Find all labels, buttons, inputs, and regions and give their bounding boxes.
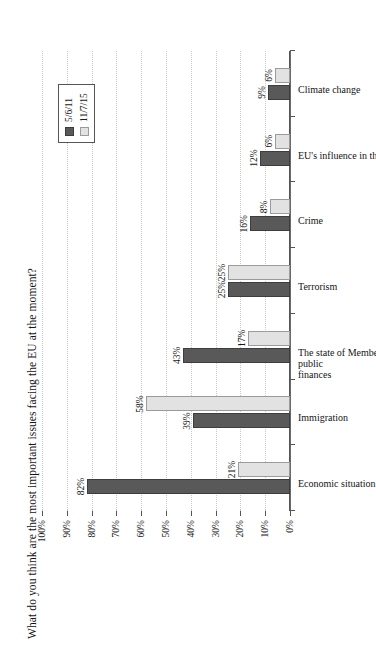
bar-value-label: 43%	[172, 347, 182, 364]
legend-swatch-icon	[65, 127, 74, 136]
bar-value-label: 21%	[227, 461, 237, 478]
bar-value-label: 39%	[182, 412, 192, 429]
bar-group[interactable]: 43%17%	[42, 314, 290, 380]
y-tick-mark	[166, 511, 167, 516]
category-tick	[290, 313, 295, 314]
bar-value-label: 58%	[135, 395, 145, 412]
y-tick-label: 40%	[186, 520, 196, 537]
legend-swatch-icon	[80, 127, 89, 136]
bar-value-label: 12%	[249, 149, 259, 166]
bar-5-6-11[interactable]: 25%	[228, 282, 290, 297]
y-tick-label: 60%	[136, 520, 146, 537]
chart-legend: 5/6/1111/7/15	[58, 84, 95, 143]
y-tick-mark	[265, 511, 266, 516]
y-tick-mark	[240, 511, 241, 516]
bar-5-6-11[interactable]: 16%	[250, 216, 290, 231]
bar-chart-figure: What do you think are the most important…	[0, 0, 376, 661]
category-tick	[290, 116, 295, 117]
gridline-0%	[290, 51, 291, 511]
bar-5-6-11[interactable]: 43%	[183, 348, 290, 363]
legend-item[interactable]: 11/7/15	[79, 93, 89, 136]
category-tick	[290, 50, 295, 51]
y-tick-mark	[290, 511, 291, 516]
bar-group[interactable]: 16%8%	[42, 182, 290, 248]
bar-value-label: 25%	[217, 264, 227, 281]
bar-5-6-11[interactable]: 12%	[260, 151, 290, 166]
category-tick	[290, 510, 295, 511]
y-tick-mark	[42, 511, 43, 516]
y-tick-mark	[191, 511, 192, 516]
y-tick-mark	[141, 511, 142, 516]
bar-11-7-15[interactable]: 21%	[238, 462, 290, 477]
bar-value-label: 6%	[264, 69, 274, 82]
y-tick-label: 20%	[235, 520, 245, 537]
category-label: Climate change	[298, 84, 376, 95]
bar-group[interactable]: 39%58%	[42, 380, 290, 446]
bar-11-7-15[interactable]: 58%	[146, 396, 290, 411]
bar-5-6-11[interactable]: 39%	[193, 413, 290, 428]
bar-value-label: 9%	[257, 86, 267, 99]
bar-value-label: 25%	[217, 281, 227, 298]
category-label: Immigration	[298, 412, 376, 423]
category-tick	[290, 247, 295, 248]
category-tick	[290, 444, 295, 445]
y-tick-label: 50%	[161, 520, 171, 537]
bar-11-7-15[interactable]: 8%	[270, 199, 290, 214]
y-tick-label: 70%	[111, 520, 121, 537]
y-tick-label: 80%	[87, 520, 97, 537]
y-tick-label: 100%	[37, 520, 47, 542]
rotated-figure-container: What do you think are the most important…	[0, 0, 376, 661]
y-tick-label: 0%	[285, 520, 295, 533]
bar-value-label: 17%	[237, 330, 247, 347]
category-label: The state of Member States' public finan…	[298, 347, 376, 381]
bar-value-label: 16%	[239, 215, 249, 232]
category-tick	[290, 181, 295, 182]
y-tick-label: 30%	[211, 520, 221, 537]
bar-value-label: 6%	[264, 135, 274, 148]
y-tick-mark	[67, 511, 68, 516]
bar-value-label: 82%	[76, 478, 86, 495]
legend-label: 11/7/15	[79, 93, 89, 122]
category-tick	[290, 379, 295, 380]
category-label: Crime	[298, 215, 376, 226]
y-tick-mark	[116, 511, 117, 516]
bar-11-7-15[interactable]: 25%	[228, 265, 290, 280]
category-label: Economic situation	[298, 478, 376, 489]
chart-title: What do you think are the most important…	[26, 268, 38, 639]
bar-11-7-15[interactable]: 6%	[275, 134, 290, 149]
bar-5-6-11[interactable]: 9%	[268, 85, 290, 100]
y-tick-label: 10%	[260, 520, 270, 537]
y-tick-mark	[92, 511, 93, 516]
bar-5-6-11[interactable]: 82%	[87, 479, 290, 494]
bar-group[interactable]: 25%25%	[42, 248, 290, 314]
bar-11-7-15[interactable]: 17%	[248, 331, 290, 346]
legend-label: 5/6/11	[64, 98, 74, 122]
category-label: Terrorism	[298, 281, 376, 292]
bar-11-7-15[interactable]: 6%	[275, 68, 290, 83]
y-tick-label: 90%	[62, 520, 72, 537]
category-label: EU's influence in the world	[298, 150, 376, 161]
bar-group[interactable]: 82%21%	[42, 445, 290, 511]
y-tick-mark	[216, 511, 217, 516]
bar-value-label: 8%	[259, 200, 269, 213]
legend-item[interactable]: 5/6/11	[64, 93, 74, 136]
